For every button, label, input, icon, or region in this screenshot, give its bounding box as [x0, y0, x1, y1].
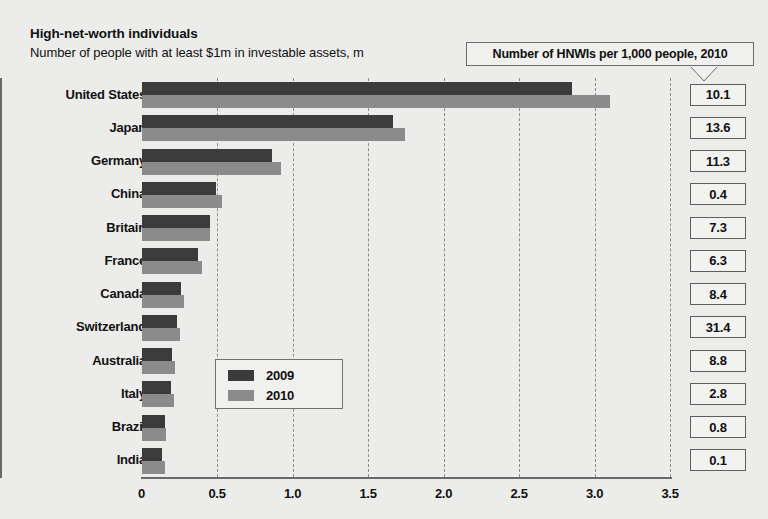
bar-2010: [142, 228, 210, 241]
annotation-value-box: 31.4: [690, 316, 746, 338]
bar-2009: [142, 82, 572, 95]
legend-label-2009: 2009: [266, 368, 294, 383]
bar-2010: [142, 128, 405, 141]
bar-2009: [142, 248, 198, 261]
annotation-value-box: 0.8: [690, 416, 746, 438]
x-tick-label: 2.5: [510, 486, 527, 501]
category-label: Brazil: [112, 419, 146, 434]
bar-2009: [142, 149, 272, 162]
annotation-value-box: 13.6: [690, 117, 746, 139]
bar-2010: [142, 428, 166, 441]
x-tick-label: 0.5: [208, 486, 225, 501]
chart-legend: 2009 2010: [215, 359, 343, 409]
annotation-value-box: 8.8: [690, 350, 746, 372]
x-tick-label: 1.5: [359, 486, 376, 501]
bar-2010: [142, 195, 222, 208]
legend-item: 2010: [228, 386, 342, 404]
category-label: Britain: [106, 220, 146, 235]
bar-2010: [142, 162, 281, 175]
x-tick-label: 3.0: [586, 486, 603, 501]
annotation-value-box: 0.1: [690, 449, 746, 471]
bar-2010: [142, 95, 610, 108]
bar-2009: [142, 182, 216, 195]
legend-item: 2009: [228, 366, 342, 384]
bar-2009: [142, 415, 165, 428]
annotation-value-box: 10.1: [690, 84, 746, 106]
bar-2009: [142, 215, 210, 228]
y-axis-line: [0, 78, 2, 478]
bar-2009: [142, 282, 181, 295]
annotation-header-callout: Number of HNWIs per 1,000 people, 2010: [466, 42, 754, 66]
x-tick-label: 0: [138, 486, 145, 501]
gridline: [595, 78, 596, 477]
legend-swatch-2009: [228, 370, 254, 381]
bar-2010: [142, 361, 175, 374]
x-tick-label: 3.5: [661, 486, 678, 501]
annotation-value-box: 11.3: [690, 150, 746, 172]
bar-2010: [142, 295, 184, 308]
bar-2009: [142, 115, 393, 128]
bar-2009: [142, 315, 177, 328]
category-label: Switzerland: [76, 319, 146, 334]
category-label: Australia: [92, 353, 146, 368]
annotation-value-box: 6.3: [690, 250, 746, 272]
gridline: [519, 78, 520, 477]
page-title: High-net-worth individuals: [30, 26, 198, 41]
annotation-value-box: 7.3: [690, 217, 746, 239]
bar-2010: [142, 394, 174, 407]
bar-2009: [142, 348, 172, 361]
bar-2010: [142, 261, 202, 274]
category-label: China: [111, 186, 146, 201]
bar-2010: [142, 461, 165, 474]
gridline: [444, 78, 445, 477]
x-tick-label: 1.0: [284, 486, 301, 501]
annotation-value-box: 8.4: [690, 283, 746, 305]
category-label: United States: [66, 87, 146, 102]
legend-label-2010: 2010: [266, 388, 294, 403]
annotation-value-box: 2.8: [690, 383, 746, 405]
x-tick-label: 2.0: [435, 486, 452, 501]
x-axis-line: [141, 477, 672, 479]
category-label: Canada: [100, 286, 146, 301]
gridline: [670, 78, 671, 477]
annotation-value-box: 0.4: [690, 183, 746, 205]
category-label: Germany: [91, 153, 146, 168]
legend-swatch-2010: [228, 390, 254, 401]
callout-pointer-icon: [690, 66, 718, 81]
category-label: Japan: [109, 120, 146, 135]
bar-2009: [142, 448, 162, 461]
chart-page: High-net-worth individuals Number of peo…: [0, 0, 768, 519]
bar-2010: [142, 328, 180, 341]
bar-2009: [142, 381, 171, 394]
page-subtitle: Number of people with at least $1m in in…: [30, 45, 364, 60]
category-label: France: [105, 253, 146, 268]
